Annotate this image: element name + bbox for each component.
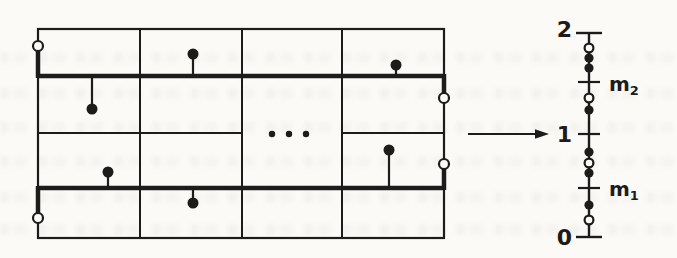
sample-point-dot: [188, 198, 199, 209]
axis-label-0: 0: [557, 227, 572, 249]
figure-svg: [0, 0, 677, 258]
axis-label-1: 1: [557, 124, 572, 146]
m1-label: m1: [609, 179, 639, 199]
ellipsis-dot: [303, 131, 309, 137]
m1-label-base: m: [609, 177, 630, 201]
axis-open-marker: [585, 94, 594, 103]
m2-label: m2: [609, 74, 639, 94]
m2-label-base: m: [609, 72, 630, 96]
axis-label-2: 2: [557, 19, 572, 41]
open-endpoint-circle: [439, 93, 449, 103]
m2-label-sub: 2: [630, 83, 639, 98]
m1-label-sub: 1: [630, 188, 639, 203]
mapping-arrow-head: [535, 129, 549, 139]
open-endpoint-circle: [33, 213, 43, 223]
axis-filled-marker: [584, 53, 593, 62]
sample-point-dot: [87, 104, 98, 115]
axis-filled-marker: [584, 147, 593, 156]
axis-filled-marker: [584, 63, 593, 72]
axis-filled-marker: [584, 105, 593, 114]
ellipsis-dot: [286, 131, 292, 137]
textbook-figure-page: 2 1 0 m2 m1: [0, 0, 677, 258]
sample-point-dot: [103, 167, 114, 178]
open-endpoint-circle: [439, 159, 449, 169]
open-endpoint-circle: [33, 41, 43, 51]
axis-open-marker: [585, 159, 594, 168]
ellipsis-dot: [269, 131, 275, 137]
sample-point-dot: [384, 145, 395, 156]
axis-open-marker: [585, 44, 594, 53]
axis-filled-marker: [584, 168, 593, 177]
axis-filled-marker: [584, 200, 593, 209]
axis-open-marker: [585, 216, 594, 225]
sample-point-dot: [188, 49, 199, 60]
sample-point-dot: [391, 60, 402, 71]
